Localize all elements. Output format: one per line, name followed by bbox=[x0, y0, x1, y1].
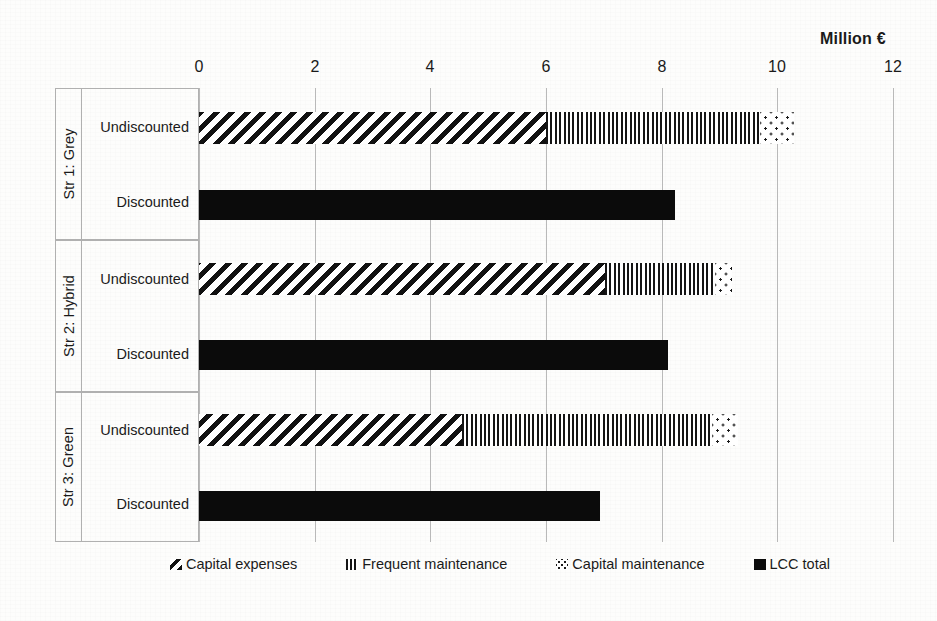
group-rows: Undiscounted Discounted bbox=[82, 241, 198, 391]
legend-label: Capital maintenance bbox=[572, 556, 704, 572]
bar-segment-frequent-maintenance bbox=[462, 414, 712, 446]
gridline-8 bbox=[662, 88, 663, 542]
bar-segment-capital-maintenance bbox=[760, 112, 794, 144]
xtick-label-10: 10 bbox=[768, 58, 786, 76]
bar-segment-capital-maintenance bbox=[712, 414, 738, 446]
gridline-10 bbox=[777, 88, 778, 542]
group-rows: Undiscounted Discounted bbox=[82, 89, 198, 239]
diagonal-hatch-swatch-icon bbox=[170, 559, 182, 570]
category-group-str-1-grey: Str 1: Grey Undiscounted Discounted bbox=[55, 88, 199, 240]
row-label-undiscounted: Undiscounted bbox=[82, 393, 198, 467]
xtick-label-8: 8 bbox=[658, 58, 667, 76]
bar-segment-capital-expenses bbox=[199, 112, 546, 144]
bar-str3-discounted-lcc-total[interactable] bbox=[199, 491, 600, 521]
legend-label: Frequent maintenance bbox=[362, 556, 507, 572]
xtick-label-4: 4 bbox=[426, 58, 435, 76]
gridline-0 bbox=[199, 88, 200, 542]
dots-swatch-icon bbox=[556, 559, 568, 570]
legend-item-frequent-maintenance[interactable]: Frequent maintenance bbox=[346, 556, 507, 572]
xtick-label-12: 12 bbox=[884, 58, 902, 76]
chart-plot-area: 0 2 4 6 8 10 12 Str 1: Grey Undiscounted… bbox=[0, 0, 937, 621]
bar-str2-undiscounted[interactable] bbox=[199, 263, 732, 295]
row-label-discounted: Discounted bbox=[82, 316, 198, 391]
legend-label: Capital expenses bbox=[186, 556, 297, 572]
row-label-discounted: Discounted bbox=[82, 467, 198, 541]
bar-str3-undiscounted[interactable] bbox=[199, 414, 738, 446]
group-title-str-1-grey: Str 1: Grey bbox=[56, 89, 82, 239]
bar-segment-capital-maintenance bbox=[715, 263, 732, 295]
group-title-label: Str 1: Grey bbox=[61, 128, 77, 199]
row-label-discounted: Discounted bbox=[82, 164, 198, 239]
row-label-undiscounted: Undiscounted bbox=[82, 89, 198, 164]
chart-legend: Capital expenses Frequent maintenance Ca… bbox=[170, 556, 830, 572]
legend-label: LCC total bbox=[770, 556, 830, 572]
category-group-str-3-green: Str 3: Green Undiscounted Discounted bbox=[55, 392, 199, 542]
legend-item-capital-expenses[interactable]: Capital expenses bbox=[170, 556, 297, 572]
group-rows: Undiscounted Discounted bbox=[82, 393, 198, 541]
bar-segment-capital-expenses bbox=[199, 414, 462, 446]
legend-item-capital-maintenance[interactable]: Capital maintenance bbox=[556, 556, 704, 572]
vertical-lines-swatch-icon bbox=[346, 559, 358, 570]
gridline-6 bbox=[546, 88, 547, 542]
bar-str2-discounted-lcc-total[interactable] bbox=[199, 340, 668, 370]
group-title-label: Str 2: Hybrid bbox=[61, 275, 77, 357]
bar-str1-undiscounted[interactable] bbox=[199, 112, 794, 144]
group-title-label: Str 3: Green bbox=[61, 427, 77, 507]
gridline-4 bbox=[430, 88, 431, 542]
xtick-label-0: 0 bbox=[195, 58, 204, 76]
bar-segment-capital-expenses bbox=[199, 263, 605, 295]
category-group-str-2-hybrid: Str 2: Hybrid Undiscounted Discounted bbox=[55, 240, 199, 392]
legend-item-lcc-total[interactable]: LCC total bbox=[754, 556, 830, 572]
solid-black-swatch-icon bbox=[754, 559, 766, 570]
bar-str1-discounted-lcc-total[interactable] bbox=[199, 190, 675, 220]
xtick-label-2: 2 bbox=[311, 58, 320, 76]
xtick-label-6: 6 bbox=[542, 58, 551, 76]
gridline-2 bbox=[315, 88, 316, 542]
bar-segment-frequent-maintenance bbox=[546, 112, 760, 144]
bar-segment-frequent-maintenance bbox=[605, 263, 715, 295]
row-label-undiscounted: Undiscounted bbox=[82, 241, 198, 316]
group-title-str-3-green: Str 3: Green bbox=[56, 393, 82, 541]
group-title-str-2-hybrid: Str 2: Hybrid bbox=[56, 241, 82, 391]
gridline-12 bbox=[893, 88, 894, 542]
